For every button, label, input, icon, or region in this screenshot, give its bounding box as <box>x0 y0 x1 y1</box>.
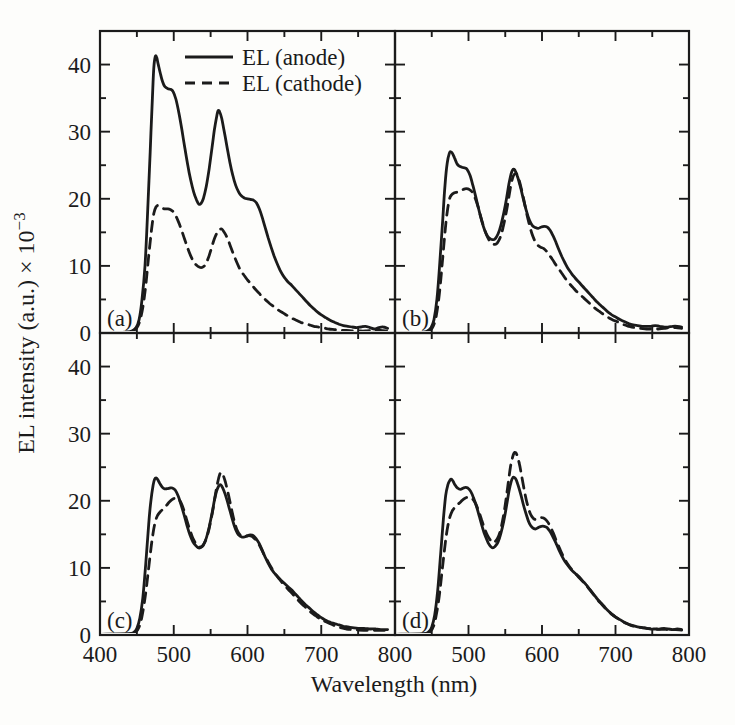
x-tick-label: 500 <box>157 642 192 667</box>
x-tick-label: 500 <box>451 642 486 667</box>
y-tick-label: 10 <box>68 254 91 279</box>
panel-b-anode-curve <box>395 152 682 333</box>
x-tick-label: 700 <box>598 642 633 667</box>
y-tick-label: 20 <box>68 489 91 514</box>
panel-a-anode-curve <box>100 56 388 333</box>
y-tick-label: 40 <box>68 53 91 78</box>
legend-label: EL (anode) <box>242 45 345 70</box>
y-tick-label: 30 <box>68 120 91 145</box>
y-axis-label: EL intensity (a.u.) × 10−3 <box>10 212 39 453</box>
legend: EL (anode)EL (cathode) <box>185 45 362 96</box>
panel-d: 500600700800(d) <box>395 333 706 667</box>
x-axis-label: Wavelength (nm) <box>311 671 478 697</box>
panel-a-cathode-curve <box>100 205 388 333</box>
panel-d-cathode-curve <box>395 452 682 635</box>
y-tick-label: 10 <box>68 556 91 581</box>
el-spectra-figure: 010203040(a)(b)010203040400500600700800(… <box>0 0 735 725</box>
x-tick-label: 800 <box>378 642 413 667</box>
panel-b-cathode-curve <box>395 173 682 333</box>
x-tick-label: 600 <box>525 642 560 667</box>
x-tick-label: 800 <box>672 642 707 667</box>
y-tick-label: 0 <box>80 321 92 346</box>
x-tick-label: 600 <box>230 642 265 667</box>
panel-c-cathode-curve <box>100 472 388 635</box>
panel-c: 010203040400500600700800(c) <box>68 333 412 667</box>
y-tick-label: 20 <box>68 187 91 212</box>
y-tick-label: 40 <box>68 355 91 380</box>
legend-label: EL (cathode) <box>242 71 362 96</box>
y-tick-label: 30 <box>68 422 91 447</box>
x-tick-label: 700 <box>304 642 339 667</box>
panel-label-a: (a) <box>107 306 133 331</box>
panel-b: (b) <box>395 31 689 333</box>
panel-label-c: (c) <box>107 608 133 633</box>
panel-label-d: (d) <box>402 608 429 633</box>
x-tick-label: 400 <box>83 642 118 667</box>
panel-label-b: (b) <box>402 306 429 331</box>
el-spectra-chart: 010203040(a)(b)010203040400500600700800(… <box>0 0 735 725</box>
